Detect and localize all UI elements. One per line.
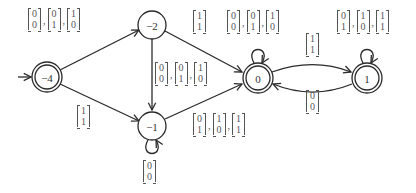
vector-entry: 0 [32, 19, 37, 30]
edge-label-m4-m2: 00,01,10 [28, 8, 80, 30]
column-vector: 11 [376, 10, 389, 32]
vector-entry: 1 [310, 44, 315, 55]
column-vector: 01 [193, 113, 206, 135]
column-vector: 00 [143, 160, 156, 182]
vector-entry: 0 [361, 21, 366, 32]
column-vector: 10 [266, 10, 279, 32]
vector-entry: 0 [231, 10, 236, 21]
edge-m4-to-m2 [60, 30, 139, 70]
state-label: 0 [255, 73, 261, 85]
vector-entry: 0 [341, 10, 346, 21]
vector-entry: 0 [217, 124, 222, 135]
vector-entry: 1 [52, 19, 57, 30]
vector-entry: 0 [179, 62, 184, 73]
vector-entry: 1 [236, 113, 241, 124]
vector-entry: 1 [270, 10, 275, 21]
edge-label-1-self: 01,10,11 [337, 10, 389, 32]
column-vector: 11 [77, 105, 90, 127]
vector-entry: 0 [270, 21, 275, 32]
edge-0-to-1 [272, 65, 351, 73]
vector-entry: 1 [310, 33, 315, 44]
column-vector: 01 [48, 8, 61, 30]
vector-entry: 1 [197, 21, 202, 32]
column-vector: 01 [175, 62, 188, 84]
state-label: −4 [41, 72, 53, 84]
vector-entry: 1 [179, 73, 184, 84]
column-vector: 10 [213, 113, 226, 135]
vector-entry: 1 [251, 21, 256, 32]
vector-entry: 0 [251, 10, 256, 21]
edge-label-0-1: 11 [306, 33, 319, 55]
vector-entry: 1 [198, 62, 203, 73]
vector-entry: 1 [81, 116, 86, 127]
vector-entry: 1 [217, 113, 222, 124]
vector-entry: 0 [198, 73, 203, 84]
comma-separator: , [227, 120, 232, 131]
vector-entry: 1 [81, 105, 86, 116]
vector-entry: 1 [197, 10, 202, 21]
edge-label-1-0: 00 [306, 90, 319, 112]
vector-entry: 0 [159, 73, 164, 84]
vector-entry: 0 [52, 8, 57, 19]
vector-entry: 0 [310, 101, 315, 112]
comma-separator: , [62, 15, 67, 26]
comma-separator: , [42, 15, 47, 26]
vector-entry: 1 [341, 21, 346, 32]
state-node-0: 0 [243, 63, 273, 93]
column-vector: 10 [67, 8, 80, 30]
edge-label-m2-0: 11 [193, 10, 206, 32]
edge-1-self-loop [361, 50, 373, 64]
edge-label-0-self: 00,01,10 [227, 10, 279, 32]
state-node-minus-2: −2 [138, 11, 166, 39]
vector-entry: 1 [236, 124, 241, 135]
state-label: −1 [146, 121, 158, 133]
state-node-minus-4: −4 [32, 62, 62, 92]
column-vector: 11 [306, 33, 319, 55]
vector-entry: 0 [147, 171, 152, 182]
column-vector: 00 [306, 90, 319, 112]
edge-label-m2-m1: 00,01,10 [155, 62, 207, 84]
column-vector: 01 [247, 10, 260, 32]
edge-m1-self-loop [146, 140, 158, 154]
column-vector: 11 [232, 113, 245, 135]
edge-label-m1-self: 00 [143, 160, 156, 182]
vector-entry: 0 [231, 21, 236, 32]
vector-entry: 0 [159, 62, 164, 73]
vector-entry: 1 [71, 8, 76, 19]
edge-label-m4-m1: 11 [77, 105, 90, 127]
comma-separator: , [169, 69, 174, 80]
comma-separator: , [189, 69, 194, 80]
column-vector: 00 [227, 10, 240, 32]
comma-separator: , [371, 17, 376, 28]
column-vector: 11 [193, 10, 206, 32]
state-node-minus-1: −1 [138, 112, 166, 140]
column-vector: 10 [194, 62, 207, 84]
edge-label-m1-0: 01,10,11 [193, 113, 245, 135]
comma-separator: , [241, 17, 246, 28]
edge-m4-to-m1 [60, 84, 139, 121]
state-label: −2 [146, 20, 158, 32]
vector-entry: 1 [380, 10, 385, 21]
vector-entry: 1 [380, 21, 385, 32]
state-label: 1 [364, 73, 370, 85]
vector-entry: 0 [71, 19, 76, 30]
vector-entry: 0 [310, 90, 315, 101]
column-vector: 00 [155, 62, 168, 84]
edge-0-self-loop [252, 50, 264, 64]
column-vector: 00 [28, 8, 41, 30]
comma-separator: , [351, 17, 356, 28]
comma-separator: , [207, 120, 212, 131]
vector-entry: 0 [197, 113, 202, 124]
column-vector: 10 [357, 10, 370, 32]
vector-entry: 1 [197, 124, 202, 135]
state-node-1: 1 [352, 63, 382, 93]
vector-entry: 1 [361, 10, 366, 21]
vector-entry: 0 [147, 160, 152, 171]
comma-separator: , [261, 17, 266, 28]
column-vector: 01 [337, 10, 350, 32]
vector-entry: 0 [32, 8, 37, 19]
